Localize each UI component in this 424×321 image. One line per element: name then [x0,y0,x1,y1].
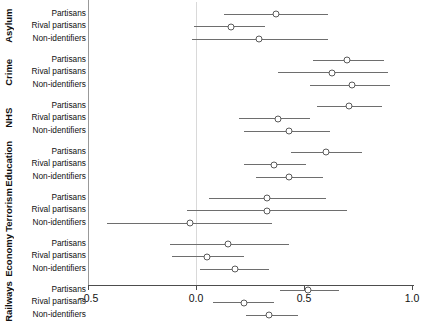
point-estimate-marker [203,253,210,260]
x-axis-line [88,285,414,286]
point-estimate-marker [322,149,329,156]
x-axis-tick-label: 1.0 [405,292,420,304]
group-label-nhs: NHS [0,97,16,139]
x-axis-tick [412,285,413,290]
x-axis-tick-label: −0.5 [78,292,99,304]
point-estimate-marker [344,57,351,64]
x-axis-tick-label: 0.0 [189,292,204,304]
x-axis-tick [88,285,89,290]
group-label-terrorism: Terrorism [0,189,16,231]
point-estimate-marker [272,11,279,18]
point-estimate-marker [270,161,277,168]
point-estimate-marker [348,82,355,89]
point-estimate-marker [329,69,336,76]
point-estimate-marker [225,241,232,248]
point-estimate-marker [264,195,271,202]
group-label-education: Education [0,143,16,185]
x-axis-tick [196,285,197,290]
point-estimate-marker [227,23,234,30]
point-estimate-marker [231,266,238,273]
group-label-asylum: Asylum [0,5,16,47]
point-estimate-marker [264,207,271,214]
group-label-crime: Crime [0,51,16,93]
x-axis-tick [304,285,305,290]
plot-panel: −0.50.00.51.0 [88,0,414,285]
point-estimate-marker [266,312,273,319]
point-estimate-marker [346,103,353,110]
group-label-railways: Railways [0,281,16,321]
point-estimate-marker [186,220,193,227]
point-estimate-marker [275,115,282,122]
group-label-economy: Economy [0,235,16,277]
point-estimate-marker [255,36,262,43]
panel-left-border [88,0,89,285]
x-axis-tick-label: 0.5 [297,292,312,304]
forest-plot: PartisansRival partisansNon-identifiersP… [0,0,424,321]
point-estimate-marker [285,174,292,181]
point-estimate-marker [240,299,247,306]
point-estimate-marker [285,128,292,135]
